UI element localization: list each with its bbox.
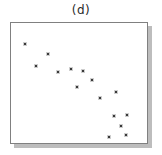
- data-point: [70, 68, 72, 70]
- data-point: [125, 134, 127, 136]
- data-point: [82, 70, 84, 72]
- data-point: [47, 53, 49, 55]
- data-point: [57, 71, 59, 73]
- data-point: [108, 136, 110, 138]
- data-point: [91, 79, 93, 81]
- data-point: [24, 43, 26, 45]
- data-point: [76, 86, 78, 88]
- figure-title: (d): [0, 3, 162, 17]
- data-point: [115, 91, 117, 93]
- data-point: [120, 125, 122, 127]
- data-point: [113, 115, 115, 117]
- data-point: [99, 97, 101, 99]
- plot-area: [10, 22, 148, 144]
- data-point: [35, 65, 37, 67]
- scatter-figure: (d): [0, 0, 162, 155]
- data-point: [126, 114, 128, 116]
